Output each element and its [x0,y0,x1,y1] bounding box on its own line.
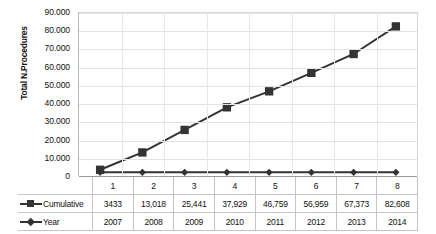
legend-entry-cumulative[interactable]: Cumulative [18,195,93,213]
plot-area [78,12,418,176]
table-cell: 37,929 [214,195,255,213]
category-label: 7 [336,177,377,195]
gridline [79,68,417,69]
category-label: 4 [214,177,255,195]
legend-entry-year[interactable]: Year [18,213,93,231]
category-label: 8 [377,177,418,195]
table-cell: 2008 [133,213,174,231]
data-point-cumulative [265,87,273,95]
table-cell: 2013 [336,213,377,231]
data-point-year [266,169,273,176]
column-separator [207,13,208,176]
category-label: 2 [133,177,174,195]
table-cell: 2012 [296,213,337,231]
category-label: 1 [93,177,134,195]
table-cell: 3433 [93,195,134,213]
category-row-head [18,177,93,195]
chart-figure: Total N.Procedures 010.00020.00030.00040… [0,0,436,234]
table-row: Year20072008200920102011201220132014 [18,213,418,231]
column-separator [164,13,165,176]
data-point-cumulative [138,148,146,156]
table-row: Cumulative343313,01825,44137,92946,75956… [18,195,418,213]
y-tick-label: 60.000 [45,62,70,72]
data-point-year [181,169,188,176]
y-tick-label: 20.000 [45,135,70,145]
table-cell: 2007 [93,213,134,231]
y-tick-label: 10.000 [45,153,70,163]
table-cell: 2014 [377,213,418,231]
data-point-year [392,169,399,176]
diamond-marker-icon [20,217,42,226]
table-cell: 13,018 [133,195,174,213]
y-tick-label: 80.000 [45,25,70,35]
table-row-categories: 12345678 [18,177,418,195]
data-point-year [350,169,357,176]
category-label: 6 [296,177,337,195]
column-separator [377,13,378,176]
legend-label: Cumulative [43,199,84,209]
data-point-cumulative [180,126,188,134]
data-table: 12345678 Cumulative343313,01825,44137,92… [18,177,418,231]
table-cell: 2011 [255,213,296,231]
gridline [79,141,417,142]
y-axis-tick-labels: 010.00020.00030.00040.00050.00060.00070.… [26,12,74,176]
column-separator [292,13,293,176]
y-tick-label: 30.000 [45,116,70,126]
data-point-year [308,169,315,176]
gridline [79,122,417,123]
gridline [79,86,417,87]
table-cell: 67,373 [336,195,377,213]
table-cell: 2009 [174,213,215,231]
table-cell: 82,608 [377,195,418,213]
gridline [79,13,417,14]
gridline [79,159,417,160]
column-separator [122,13,123,176]
table-cell: 56,959 [296,195,337,213]
data-point-cumulative [307,69,315,77]
y-tick-label: 40.000 [45,98,70,108]
table-cell: 46,759 [255,195,296,213]
legend-label: Year [43,217,59,227]
data-point-year [139,169,146,176]
y-tick-label: 70.000 [45,43,70,53]
gridline [79,104,417,105]
table-cell: 25,441 [174,195,215,213]
category-label: 3 [174,177,215,195]
table-cell: 2010 [214,213,255,231]
square-marker-icon [20,199,42,208]
series-lines [79,13,417,176]
y-tick-label: 50.000 [45,80,70,90]
column-separator [334,13,335,176]
data-point-year [223,169,230,176]
y-tick-label: 90.000 [45,7,70,17]
column-separator [249,13,250,176]
data-point-cumulative [392,22,400,30]
category-label: 5 [255,177,296,195]
gridline [79,31,417,32]
gridline [79,49,417,50]
data-point-cumulative [349,50,357,58]
